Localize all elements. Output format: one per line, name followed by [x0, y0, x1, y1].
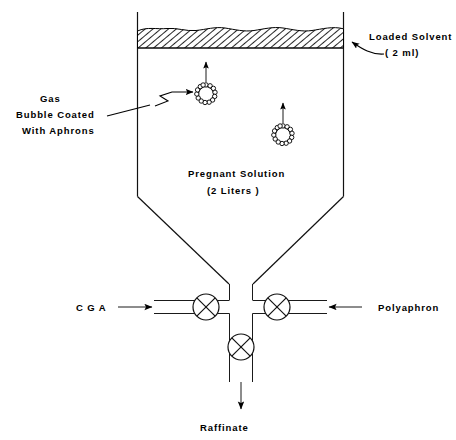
cga-label: C G A	[76, 302, 107, 313]
flotation-vessel-diagram: Loaded Solvent ( 2 ml) Gas Bubble Coated…	[0, 0, 456, 440]
gas-bubble-leader-straight	[107, 105, 150, 116]
bubble-upper-left	[195, 62, 218, 105]
vessel-cone-left	[138, 197, 230, 285]
piping-network	[154, 284, 327, 382]
vessel-outline	[138, 12, 344, 284]
gas-bubble-label-line2: Bubble Coated	[16, 109, 95, 120]
valve-cga-inlet[interactable]	[193, 294, 219, 320]
bubble-lower-right	[272, 103, 295, 146]
loaded-solvent-label-line1: Loaded Solvent	[369, 31, 452, 42]
pregnant-solution-label-line1: Pregnant Solution	[188, 168, 285, 179]
loaded-solvent-leader	[352, 42, 384, 54]
loaded-solvent-label-line2: ( 2 ml)	[385, 47, 419, 58]
process-diagram-canvas: Loaded Solvent ( 2 ml) Gas Bubble Coated…	[0, 0, 456, 440]
loaded-solvent-layer	[138, 28, 344, 48]
raffinate-label: Raffinate	[200, 422, 249, 433]
gas-bubble-label-line1: Gas	[40, 93, 61, 104]
polyaphron-label: Polyaphron	[378, 302, 439, 313]
valve-polyaphron-inlet[interactable]	[264, 294, 290, 320]
vessel-cone-right	[253, 197, 344, 285]
solvent-hatch-region	[138, 28, 344, 48]
gas-bubble-label-line3: With Aphrons	[22, 125, 95, 136]
pregnant-solution-label-line2: (2 Liters )	[207, 185, 260, 196]
valve-raffinate-outlet[interactable]	[228, 334, 254, 360]
gas-bubble-leader-squiggle	[155, 92, 193, 106]
